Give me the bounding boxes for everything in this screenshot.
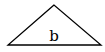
base-label: b (49, 27, 59, 45)
triangle-diagram: b (0, 0, 105, 52)
